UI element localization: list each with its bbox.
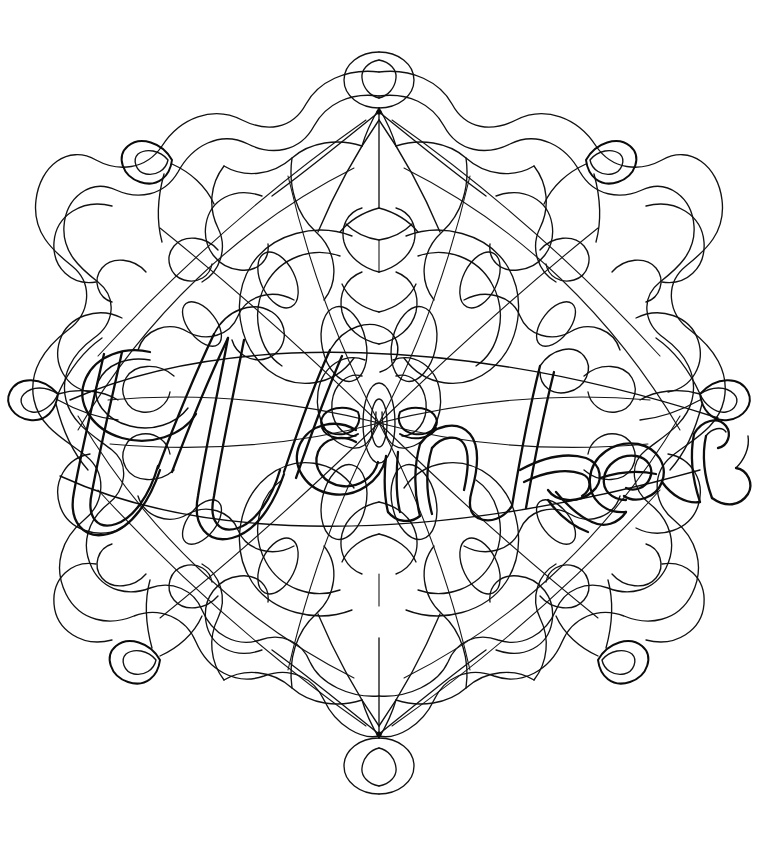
script-letter-n xyxy=(416,426,513,521)
script-letter-k xyxy=(512,349,626,532)
script-letter-r xyxy=(692,420,750,504)
script-letter-W xyxy=(73,307,398,539)
artboard: Wanker Mandala Coloring Page Black and w… xyxy=(0,0,758,846)
script-letter-a xyxy=(297,424,420,521)
script-letter-e xyxy=(590,443,700,512)
coloring-page-canvas: Wanker Mandala Coloring Page Black and w… xyxy=(0,0,758,846)
script-word-overlay xyxy=(0,0,758,846)
